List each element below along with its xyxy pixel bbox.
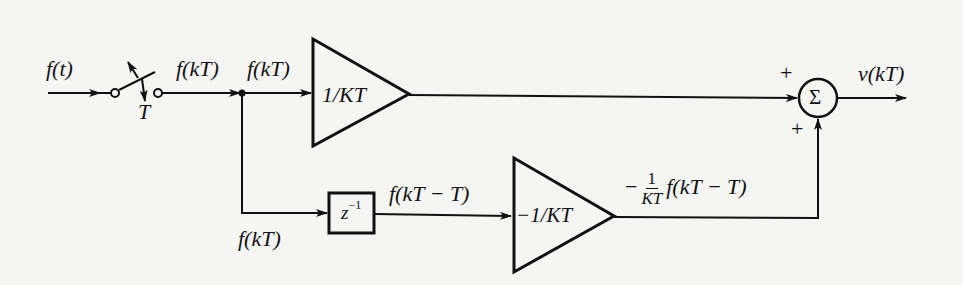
minus-sign: − [625,174,637,199]
switch-arrow-down [142,79,145,101]
summer-sign-bottom: + [791,118,803,140]
branch-node [239,90,246,97]
delay-output-label: f(kT − T) [389,183,469,205]
delay-block-label: z−1 [341,202,361,222]
switch-left-terminal [111,89,119,97]
summer-label: Σ [809,87,821,108]
summer-sign-top: + [780,62,792,84]
fraction-numerator: 1 [646,170,659,189]
switch-arrow-up [128,62,138,78]
bottom-gain-output-label: −1KTf(kT − T) [625,170,747,207]
input-label: f(t) [46,58,73,80]
fraction-denominator: KT [641,189,662,207]
fraction: 1KT [641,170,662,207]
bottom-branch-label: f(kT) [238,228,281,250]
top-gain-input-label: f(kT) [247,58,290,80]
sampled-signal-label: f(kT) [176,58,219,80]
sampler-period-label: T [138,101,150,123]
delay-exponent: −1 [348,198,361,212]
output-label: v(kT) [858,63,904,85]
switch-right-terminal [154,89,162,97]
delayed-signal: f(kT − T) [666,174,746,199]
block-diagram: f(t) T f(kT) f(kT) 1/KT + + Σ v(kT) f(kT… [0,0,963,285]
diagram-wires [0,0,963,285]
top-gain-label: 1/KT [322,84,366,106]
bottom-gain-label: −1/KT [516,205,572,226]
